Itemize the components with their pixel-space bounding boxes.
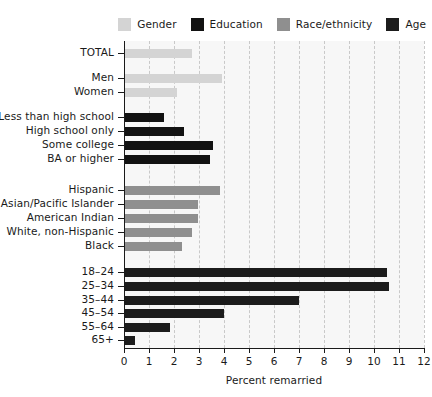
bar [124,113,164,122]
gridline [399,41,400,348]
y-axis-tick [118,78,124,79]
bar [124,282,389,291]
y-axis-tick-label: Women [74,85,114,97]
x-axis-tick-label: 12 [417,355,430,367]
chart-figure: GenderEducationRace/ethnicityAge TOTALMe… [0,0,432,397]
bar [124,268,387,277]
y-axis-tick-label: American Indian [27,211,114,223]
y-axis-tick-label: 25–34 [82,279,115,291]
plot-area [124,41,424,348]
x-axis-tick-label: 9 [346,355,353,367]
legend-swatch-icon [118,18,131,31]
y-axis-tick-label: High school only [26,124,114,136]
chart-legend: GenderEducationRace/ethnicityAge [0,14,432,34]
y-axis-tick-label: White, non-Hispanic [7,225,114,237]
y-axis-tick [118,300,124,301]
x-axis-tick [399,348,400,353]
legend-item-education[interactable]: Education [191,18,263,31]
y-axis-tick [118,117,124,118]
y-axis-tick [118,313,124,314]
y-axis-tick-label: Black [85,239,114,251]
x-axis-tick [324,348,325,353]
y-axis-tick-label: TOTAL [80,46,114,58]
legend-swatch-icon [277,18,290,31]
y-axis-tick [118,53,124,54]
bar [124,296,299,305]
y-axis-tick-label: 35–44 [82,293,115,305]
x-axis-tick-label: 2 [171,355,178,367]
gridline [424,41,425,348]
gridline [324,41,325,348]
y-axis-tick [118,232,124,233]
y-axis-tick-label: Hispanic [68,183,114,195]
y-axis-tick-label: 55–64 [82,320,115,332]
x-axis-tick [174,348,175,353]
legend-label: Age [405,18,426,30]
x-axis-tick-label: 10 [367,355,380,367]
y-axis-tick [118,246,124,247]
bar [124,127,184,136]
x-axis-tick [199,348,200,353]
x-axis-tick [149,348,150,353]
y-axis-tick [118,159,124,160]
legend-swatch-icon [191,18,204,31]
y-axis-tick [118,286,124,287]
bar [124,228,192,237]
legend-label: Race/ethnicity [296,18,373,30]
y-axis-tick [118,204,124,205]
bar [124,323,170,332]
bar [124,88,177,97]
gridline [374,41,375,348]
y-axis-tick-label: Men [92,71,115,83]
x-axis-tick [249,348,250,353]
y-axis-tick [118,327,124,328]
legend-swatch-icon [386,18,399,31]
x-axis-tick [299,348,300,353]
legend-item-race-ethnicity[interactable]: Race/ethnicity [277,18,373,31]
x-axis-tick-label: 11 [392,355,405,367]
bar [124,214,198,223]
bar [124,155,210,164]
x-axis-tick [224,348,225,353]
x-axis-title: Percent remarried [124,374,424,386]
x-axis-tick-label: 7 [296,355,303,367]
y-axis-tick-label: 45–54 [82,306,115,318]
y-axis-tick [118,218,124,219]
y-axis-tick [118,190,124,191]
y-axis-tick-label: Asian/Pacific Islander [1,197,114,209]
x-axis-tick [349,348,350,353]
y-axis-tick-label: BA or higher [47,152,114,164]
y-axis-tick [118,92,124,93]
y-axis-tick [118,340,124,341]
x-axis-tick [374,348,375,353]
y-axis-tick-label: Some college [42,138,114,150]
x-axis-tick [424,348,425,353]
x-axis-tick-label: 0 [121,355,128,367]
bar [124,141,213,150]
x-axis-tick-label: 5 [246,355,253,367]
x-axis-tick-label: 4 [221,355,228,367]
legend-label: Education [210,18,263,30]
x-axis-tick-label: 8 [321,355,328,367]
legend-label: Gender [137,18,176,30]
bar [124,49,192,58]
gridline [299,41,300,348]
bar [124,336,135,345]
bar [124,242,182,251]
gridline [349,41,350,348]
y-axis-tick-label: Less than high school [0,110,114,122]
bar [124,309,224,318]
y-axis-tick [118,131,124,132]
y-axis-line [124,41,125,349]
x-axis-tick-label: 6 [271,355,278,367]
legend-item-gender[interactable]: Gender [118,18,176,31]
y-axis-tick [118,272,124,273]
bar [124,186,220,195]
legend-item-age[interactable]: Age [386,18,426,31]
bar [124,200,198,209]
x-axis-tick [274,348,275,353]
y-axis-tick [118,145,124,146]
y-axis-tick-label: 65+ [92,333,114,345]
y-axis-tick-labels: TOTALMenWomenLess than high schoolHigh s… [0,41,114,348]
y-axis-tick-label: 18–24 [82,265,115,277]
